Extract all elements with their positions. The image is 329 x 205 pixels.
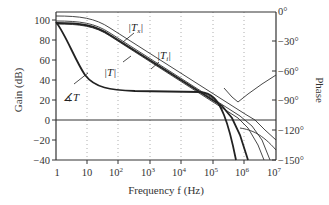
y2-axis-label: Phase: [314, 77, 326, 103]
svg-text:104: 104: [172, 166, 187, 178]
svg-text:106: 106: [235, 166, 250, 178]
svg-text:40: 40: [40, 75, 51, 86]
svg-text:80: 80: [40, 35, 51, 46]
x-axis-label: Frequency f (Hz): [128, 184, 204, 197]
y-axis-label: Gain (dB): [12, 68, 25, 113]
svg-text:−120°: −120°: [278, 125, 304, 136]
svg-text:107: 107: [267, 166, 282, 178]
curve-phase-thin: [224, 75, 276, 102]
svg-text:−20: −20: [34, 135, 50, 146]
bode-plot: 100 80 60 40 20 0 −20 −40 0° −30° −60° −…: [0, 0, 329, 205]
svg-text:103: 103: [141, 166, 156, 178]
annotation-ti: |Ti|: [157, 49, 171, 63]
svg-text:102: 102: [109, 166, 124, 178]
curve-ti: [56, 21, 270, 160]
svg-text:60: 60: [40, 55, 51, 66]
grid-lines: [87, 12, 244, 160]
svg-text:0°: 0°: [278, 6, 287, 17]
axes-frame: [56, 12, 276, 160]
annotation-t: |T|: [104, 66, 116, 78]
svg-text:20: 20: [40, 95, 51, 106]
svg-text:100: 100: [34, 15, 50, 26]
curve-phase-tail: [240, 128, 276, 150]
svg-text:−60°: −60°: [278, 66, 299, 77]
svg-text:−40: −40: [34, 155, 50, 166]
svg-text:−30°: −30°: [278, 36, 299, 47]
curve-tx: [56, 16, 276, 140]
svg-text:−150°: −150°: [278, 155, 304, 166]
annotation-tx: |Tx|: [128, 21, 143, 35]
y2-tick-labels: 0° −30° −60° −90° −120° −150°: [278, 6, 304, 166]
y-tick-labels: 100 80 60 40 20 0 −20 −40: [34, 15, 50, 166]
svg-text:−90°: −90°: [278, 95, 299, 106]
x-tick-labels: 1 10 102 103 104 105 106 107: [54, 166, 281, 178]
svg-text:105: 105: [204, 166, 219, 178]
svg-text:1: 1: [54, 167, 59, 178]
svg-text:0: 0: [45, 115, 50, 126]
x-ticks: [87, 160, 244, 164]
svg-text:10: 10: [82, 167, 93, 178]
annotation-phase: ∡T: [63, 91, 80, 103]
